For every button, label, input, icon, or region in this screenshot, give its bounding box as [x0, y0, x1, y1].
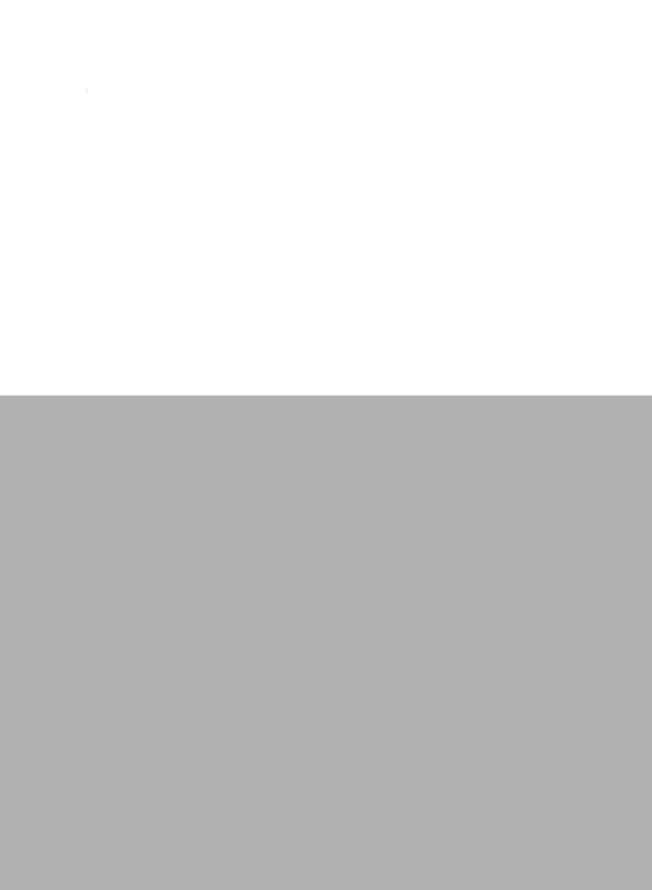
blank-page	[0, 0, 652, 890]
faint-artifact	[86, 88, 88, 94]
gray-placeholder-area	[0, 395, 652, 890]
white-content-area	[0, 0, 652, 395]
